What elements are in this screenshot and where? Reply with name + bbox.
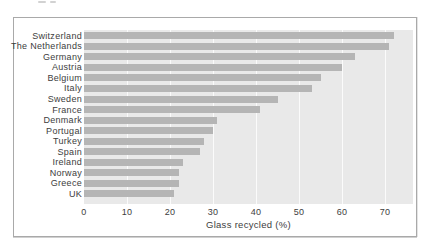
category-label: Spain — [0, 147, 82, 157]
x-axis-ticks: 010203040506070 — [84, 207, 413, 217]
category-label: The Netherlands — [0, 41, 82, 51]
x-tick-label: 10 — [112, 207, 142, 217]
x-tick-label: 40 — [241, 207, 271, 217]
bar — [84, 32, 394, 39]
bar — [84, 106, 260, 113]
bar — [84, 53, 355, 60]
bar — [84, 190, 174, 197]
bar — [84, 127, 213, 134]
bar — [84, 169, 179, 176]
x-tick-label: 60 — [327, 207, 357, 217]
bar — [84, 148, 200, 155]
x-tick-label: 0 — [69, 207, 99, 217]
category-label: Belgium — [0, 73, 82, 83]
x-tick-label: 30 — [198, 207, 228, 217]
category-label: Denmark — [0, 115, 82, 125]
category-label: Sweden — [0, 94, 82, 104]
bar — [84, 74, 321, 81]
category-label: France — [0, 105, 82, 115]
category-label: Norway — [0, 168, 82, 178]
x-tick-label: 70 — [370, 207, 400, 217]
chart-card: SwitzerlandThe NetherlandsGermanyAustria… — [13, 17, 417, 237]
page: SwitzerlandThe NetherlandsGermanyAustria… — [0, 0, 431, 249]
bar — [84, 159, 183, 166]
bar — [84, 43, 389, 50]
category-label: UK — [0, 189, 82, 199]
x-tick-label: 50 — [284, 207, 314, 217]
category-label: Greece — [0, 178, 82, 188]
plot-area — [84, 30, 413, 204]
bar — [84, 180, 179, 187]
bar — [84, 96, 278, 103]
category-label: Portugal — [0, 126, 82, 136]
category-label: Germany — [0, 52, 82, 62]
gridline — [385, 30, 386, 204]
category-label: Italy — [0, 83, 82, 93]
x-tick-label: 20 — [155, 207, 185, 217]
category-label: Turkey — [0, 136, 82, 146]
cropped-text-fragment — [38, 0, 60, 4]
bar — [84, 85, 312, 92]
x-axis-title: Glass recycled (%) — [84, 219, 413, 231]
bar — [84, 64, 342, 71]
bar — [84, 138, 204, 145]
category-label: Austria — [0, 62, 82, 72]
bar — [84, 117, 217, 124]
category-label: Ireland — [0, 157, 82, 167]
category-label: Switzerland — [0, 31, 82, 41]
